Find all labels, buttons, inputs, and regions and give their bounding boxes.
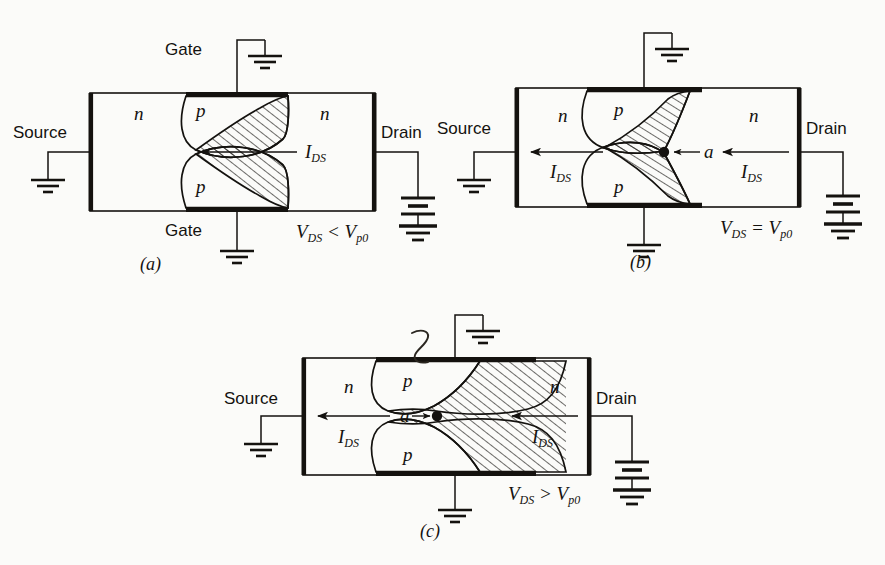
region-label-p-bottom-a: p [194, 176, 206, 197]
region-label-n-left-c: n [344, 376, 354, 397]
region-label-n-left-a: n [134, 103, 144, 124]
source-label-c: Source [224, 389, 278, 408]
figure-sheet: n n p p IDS Source Gate Gate [0, 0, 885, 565]
drain-label-c: Drain [596, 389, 637, 408]
source-label-b: Source [437, 119, 491, 138]
pinch-off-point-b [659, 147, 669, 157]
gate-label-bottom-a: Gate [165, 221, 202, 240]
region-label-p-top-b: p [612, 99, 624, 120]
region-label-n-right-c: n [550, 376, 560, 397]
caption-c: (c) [420, 521, 440, 542]
region-label-n-right-b: n [749, 105, 759, 126]
region-label-n-left-b: n [558, 105, 568, 126]
caption-a: (a) [140, 254, 161, 275]
region-label-n-right-a: n [320, 103, 330, 124]
region-label-p-top-a: p [194, 100, 206, 121]
gap-label-b: a [704, 141, 714, 162]
pinch-off-point-c [432, 411, 442, 421]
region-label-p-top-c: p [401, 370, 413, 391]
source-label-a: Source [13, 123, 67, 142]
page-background [0, 0, 885, 565]
drain-label-b: Drain [806, 119, 847, 138]
gate-label-top-a: Gate [165, 40, 202, 59]
region-label-p-bottom-b: p [612, 176, 624, 197]
region-label-p-bottom-c: p [401, 444, 413, 465]
caption-b: (b) [630, 252, 651, 273]
gap-label-c: a [400, 405, 410, 426]
jfet-figure: n n p p IDS Source Gate Gate [0, 0, 885, 565]
drain-label-a: Drain [381, 123, 422, 142]
